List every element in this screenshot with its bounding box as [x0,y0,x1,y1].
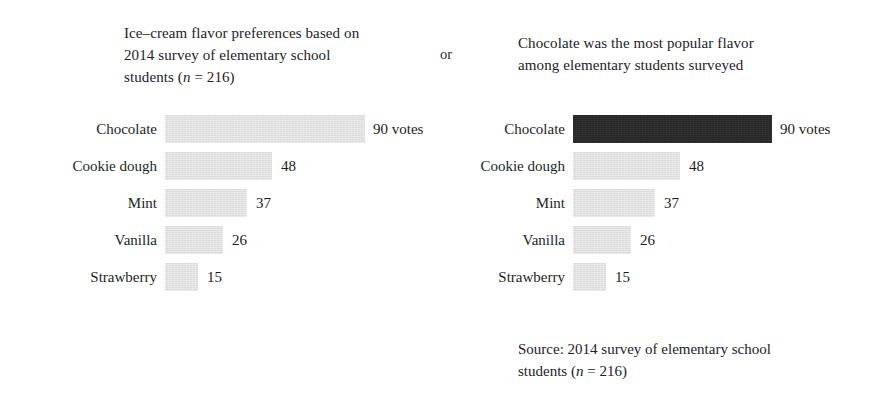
bar-value-mint-right: 37 [664,194,679,212]
bar-track-chocolate-highlighted [573,115,772,143]
bar-category-label-chocolate: Chocolate [0,120,157,138]
table-row: Cookie dough 48 [408,152,878,180]
left-chart-title-line-1: Ice–cream flavor preferences based on [124,22,424,44]
bar-category-label-vanilla-right: Vanilla [408,231,565,249]
table-row: Strawberry 15 [408,263,878,291]
left-bar-chart: Chocolate 90 votes Cookie dough 48 Mint … [0,110,450,315]
bar-track-chocolate [165,115,365,143]
bar-strawberry-right [573,263,606,291]
bar-cookie-dough-right [573,152,680,180]
bar-track-mint [165,189,247,217]
bar-track-strawberry [165,263,198,291]
bar-cookie-dough [165,152,272,180]
bar-chocolate-highlighted [573,115,772,143]
table-row: Vanilla 26 [408,226,878,254]
bar-value-strawberry-right: 15 [615,268,630,286]
table-row: Chocolate 90 votes [0,115,450,143]
source-note: Source: 2014 survey of elementary school… [518,338,858,382]
bar-value-mint: 37 [256,194,271,212]
bar-track-vanilla-right [573,226,631,254]
bar-strawberry [165,263,198,291]
bar-category-label-cookie-dough: Cookie dough [0,157,157,175]
or-connector-label: or [440,44,452,64]
bar-mint [165,189,247,217]
figure-canvas: Ice–cream flavor preferences based on 20… [0,0,886,403]
left-chart-title-line-3: students (n = 216) [124,66,424,88]
bar-track-strawberry-right [573,263,606,291]
bar-vanilla [165,226,223,254]
left-chart-title: Ice–cream flavor preferences based on 20… [124,22,424,88]
table-row: Chocolate 90 votes [408,115,878,143]
left-chart-title-line-2: 2014 survey of elementary school [124,44,424,66]
table-row: Mint 37 [408,189,878,217]
table-row: Vanilla 26 [0,226,450,254]
right-chart-title-line-2: among elementary students surveyed [518,54,848,76]
right-chart-title: Chocolate was the most popular flavor am… [518,32,848,76]
table-row: Strawberry 15 [0,263,450,291]
bar-mint-right [573,189,655,217]
right-chart-title-line-1: Chocolate was the most popular flavor [518,32,848,54]
table-row: Mint 37 [0,189,450,217]
source-note-line-1: Source: 2014 survey of elementary school [518,338,858,360]
bar-chocolate [165,115,365,143]
bar-track-cookie-dough [165,152,272,180]
bar-track-vanilla [165,226,223,254]
bar-category-label-strawberry: Strawberry [0,268,157,286]
bar-category-label-cookie-dough-right: Cookie dough [408,157,565,175]
bar-value-vanilla-right: 26 [640,231,655,249]
bar-vanilla-right [573,226,631,254]
bar-track-mint-right [573,189,655,217]
bar-category-label-mint: Mint [0,194,157,212]
bar-value-strawberry: 15 [207,268,222,286]
bar-category-label-strawberry-right: Strawberry [408,268,565,286]
right-bar-chart: Chocolate 90 votes Cookie dough 48 Mint … [408,110,878,315]
bar-track-cookie-dough-right [573,152,680,180]
source-note-line-2: students (n = 216) [518,360,858,382]
table-row: Cookie dough 48 [0,152,450,180]
bar-value-cookie-dough: 48 [281,157,296,175]
bar-value-cookie-dough-right: 48 [689,157,704,175]
bar-value-chocolate-highlighted: 90 votes [780,120,830,138]
bar-category-label-chocolate-highlighted: Chocolate [408,120,565,138]
bar-value-vanilla: 26 [232,231,247,249]
bar-category-label-vanilla: Vanilla [0,231,157,249]
bar-category-label-mint-right: Mint [408,194,565,212]
